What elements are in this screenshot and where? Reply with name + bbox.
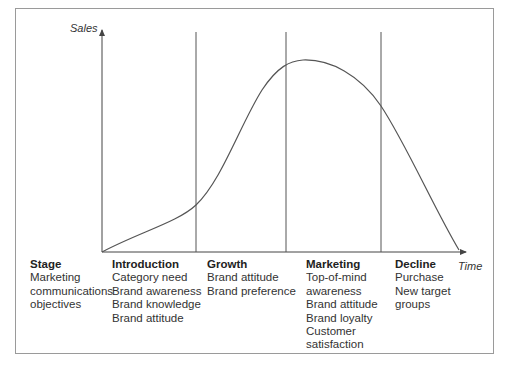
row-header-line: objectives [30, 298, 113, 311]
objective: Brand loyalty [306, 312, 378, 325]
objective: Brand attitude [306, 298, 378, 311]
objective: Brand knowledge [112, 298, 202, 311]
objective: awareness [306, 285, 378, 298]
objective: Top-of-mind [306, 271, 378, 284]
objective: Brand awareness [112, 285, 202, 298]
life-cycle-plot [0, 0, 508, 376]
objective: satisfaction [306, 338, 378, 351]
objective: Purchase [395, 271, 451, 284]
stage-growth: Growth Brand attitude Brand preference [207, 258, 296, 298]
stage-marketing: Marketing Top-of-mind awareness Brand at… [306, 258, 378, 352]
row-header-line: Marketing [30, 271, 113, 284]
objective: New target [395, 285, 451, 298]
row-header-title: Stage [30, 258, 113, 271]
objective: Brand attitude [112, 312, 202, 325]
stage-title: Growth [207, 258, 296, 271]
stage-title: Introduction [112, 258, 202, 271]
objective: Customer [306, 325, 378, 338]
stage-decline: Decline Purchase New target groups [395, 258, 451, 312]
stage-title: Marketing [306, 258, 378, 271]
row-header-line: communications [30, 285, 113, 298]
stage-title: Decline [395, 258, 451, 271]
x-axis-label: Time [458, 260, 482, 272]
objective: Category need [112, 271, 202, 284]
objective: Brand attitude [207, 271, 296, 284]
row-header: Stage Marketing communications objective… [30, 258, 113, 312]
sales-curve [102, 60, 459, 252]
stage-introduction: Introduction Category need Brand awarene… [112, 258, 202, 325]
objective: Brand preference [207, 285, 296, 298]
objective: groups [395, 298, 451, 311]
y-axis-label: Sales [70, 22, 98, 34]
